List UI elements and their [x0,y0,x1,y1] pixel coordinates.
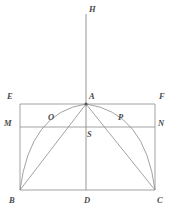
geometry-canvas [0,0,174,213]
point-label-N: N [158,119,164,128]
chord-lines [20,104,155,190]
point-label-M: M [4,119,12,128]
point-label-A: A [89,92,95,101]
arc-curves [20,104,155,190]
point-label-H: H [89,5,96,14]
point-label-F: F [159,92,165,101]
vertex-markers [85,103,88,106]
point-label-P: P [118,113,123,122]
point-label-D: D [84,196,90,205]
point-label-B: B [9,196,15,205]
vertex-dot-A [85,103,88,106]
point-label-E: E [7,92,13,101]
point-label-O: O [48,113,54,122]
geometry-figure: H A E F M N O P S B D C [0,0,174,213]
point-label-S: S [87,130,92,139]
point-label-C: C [157,196,163,205]
